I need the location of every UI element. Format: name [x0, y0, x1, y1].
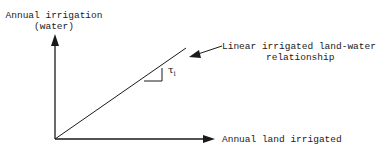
linear-relationship-line — [55, 48, 186, 139]
y-axis-label-line1: Annual irrigation — [2, 10, 106, 21]
slope-triangle — [144, 68, 162, 81]
y-axis-arrowhead-icon — [51, 34, 59, 46]
line-annotation: Linear irrigated land-water relationship — [222, 41, 376, 63]
x-axis — [55, 135, 215, 143]
y-axis — [51, 34, 59, 139]
x-axis-arrowhead-icon — [203, 135, 215, 143]
slope-label: τi — [168, 64, 176, 80]
line-annotation-line1: Linear irrigated land-water — [222, 41, 376, 52]
x-axis-label: Annual land irrigated — [222, 134, 342, 145]
y-axis-label-line2: (water) — [2, 21, 106, 32]
callout-arrow — [189, 46, 222, 58]
callout-arrowhead-icon — [189, 50, 201, 58]
y-axis-label: Annual irrigation (water) — [2, 10, 106, 32]
slope-subscript: i — [174, 70, 176, 78]
line-annotation-line2: relationship — [222, 52, 376, 63]
diagram-canvas: Annual irrigation (water) Linear irrigat… — [0, 0, 380, 152]
